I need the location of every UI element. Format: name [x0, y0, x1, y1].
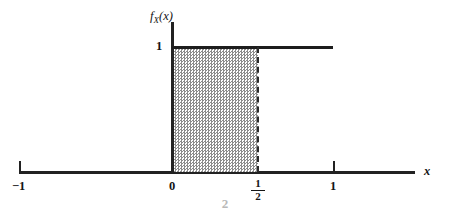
fraction-numerator: 1 — [251, 178, 265, 189]
x-tick-label-minus-one: −1 — [12, 180, 25, 193]
x-tick-label-one: 1 — [330, 180, 336, 193]
shaded-probability-region — [174, 49, 258, 172]
figure-canvas: fX(x) 1 −1 0 1 2 1 x 2 — [0, 0, 450, 217]
dashed-drop-line-at-half — [257, 47, 259, 172]
x-tick-one — [333, 161, 335, 172]
y-tick-label-one: 1 — [156, 40, 162, 53]
y-axis-label-argument: (x) — [159, 9, 173, 23]
y-axis-label: fX(x) — [150, 10, 173, 25]
x-tick-minus-one — [19, 161, 21, 172]
x-tick-label-zero: 0 — [169, 180, 175, 193]
density-plateau-line — [172, 46, 333, 49]
caption-ghost: 2 — [0, 196, 450, 212]
x-axis-label: x — [424, 165, 430, 178]
